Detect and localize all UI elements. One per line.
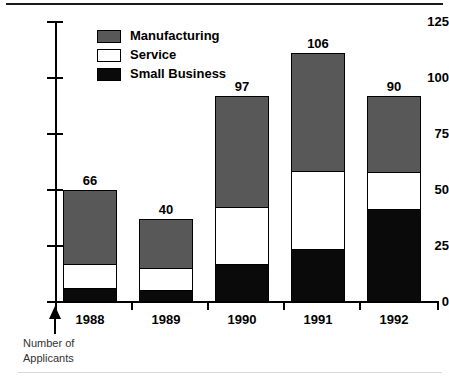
x-tick-4 [359,301,361,310]
bar-total-1991: 106 [283,37,353,50]
x-axis-label-1988: 1988 [60,313,120,327]
legend-item-small-business[interactable]: Small Business [97,65,226,83]
legend-swatch-service-icon [97,49,121,62]
axis-caption-line-2: Applicants [23,351,74,366]
bar-1988-segment-manufacturing[interactable] [63,190,117,265]
bar-1988[interactable] [63,190,117,302]
x-axis-label-1990: 1990 [212,313,272,327]
bar-1991-segment-manufacturing[interactable] [291,53,345,172]
bar-1992-segment-manufacturing[interactable] [367,96,421,173]
y-tick-50 [47,189,63,191]
legend-item-manufacturing[interactable]: Manufacturing [97,27,226,45]
y-tick-125 [47,21,63,23]
chart-legend: Manufacturing Service Small Business [97,27,226,84]
x-tick-5 [437,301,439,310]
bar-1989-segment-service[interactable] [139,268,193,291]
bar-1992[interactable] [367,96,421,302]
bar-total-1989: 40 [131,203,201,216]
legend-swatch-manufacturing-icon [97,30,121,43]
y-tick-100 [47,77,63,79]
bar-1992-segment-service[interactable] [367,172,421,210]
x-axis-label-1989: 1989 [136,313,196,327]
bar-total-1988: 66 [55,174,125,187]
bar-1992-segment-small-business[interactable] [367,209,421,302]
y-tick-75 [47,133,63,135]
axis-caption: Number of Applicants [23,336,74,366]
bar-1988-segment-service[interactable] [63,264,117,289]
x-axis-label-1991: 1991 [288,313,348,327]
plot-area: 125 100 75 50 25 0 66 40 [0,0,449,381]
bar-1990[interactable] [215,96,269,302]
bar-1990-segment-service[interactable] [215,207,269,265]
y-tick-label-125: 125 [411,15,449,28]
bar-1991[interactable] [291,53,345,302]
y-axis-line [55,22,57,303]
bar-total-1992: 90 [359,80,429,93]
x-axis-label-1992: 1992 [364,313,424,327]
legend-label-service: Service [130,48,176,62]
y-tick-25 [47,245,63,247]
bar-1988-segment-small-business[interactable] [63,288,117,302]
bar-1989-segment-small-business[interactable] [139,290,193,302]
legend-swatch-small-business-icon [97,68,121,81]
chart-figure: 125 100 75 50 25 0 66 40 [0,0,449,381]
bar-1989[interactable] [139,219,193,302]
bar-1990-segment-small-business[interactable] [215,264,269,302]
bar-1991-segment-small-business[interactable] [291,249,345,302]
legend-item-service[interactable]: Service [97,46,226,64]
x-tick-2 [207,301,209,310]
x-tick-1 [131,301,133,310]
bar-1989-segment-manufacturing[interactable] [139,219,193,269]
bar-1991-segment-service[interactable] [291,171,345,250]
legend-label-small-business: Small Business [130,67,226,81]
legend-label-manufacturing: Manufacturing [130,29,220,43]
axis-caption-line-1: Number of [23,336,74,351]
bar-1990-segment-manufacturing[interactable] [215,96,269,208]
x-tick-3 [283,301,285,310]
